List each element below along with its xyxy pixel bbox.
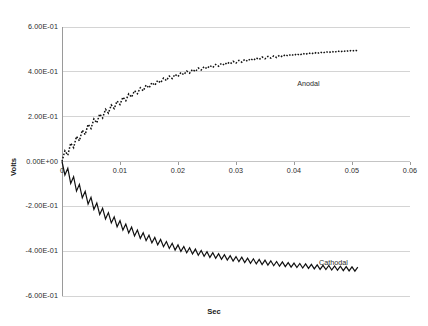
y-tick-label: 4.00E-01	[28, 67, 58, 76]
x-axis-title: Sec	[0, 307, 428, 316]
chart-container: 6.00E-01 4.00E-01 2.00E-01 0.00E+00 -2.0…	[0, 0, 428, 326]
x-tick-label: 0.05	[332, 166, 372, 175]
y-tick-label: 0.00E+00	[26, 157, 58, 166]
x-tick-label: 0.01	[100, 166, 140, 175]
x-tick-label: 0.06	[390, 166, 428, 175]
series-annotation-anodal: Anodal	[297, 79, 319, 88]
y-tick-label: 6.00E-01	[28, 22, 58, 31]
series-line-anodal	[62, 50, 358, 162]
x-tick-label: 0.04	[274, 166, 314, 175]
x-tick-label: 0	[42, 166, 82, 175]
y-tick-label: -2.00E-01	[26, 201, 58, 210]
chart-plot-area	[0, 0, 428, 326]
y-axis-title: Volts	[9, 157, 18, 175]
x-tick-label: 0.03	[216, 166, 256, 175]
y-tick-label: 2.00E-01	[28, 112, 58, 121]
y-tick-label: -4.00E-01	[26, 246, 58, 255]
series-annotation-cathodal: Cathodal	[319, 258, 348, 267]
y-tick-label: -6.00E-01	[26, 291, 58, 300]
x-tick-label: 0.02	[158, 166, 198, 175]
series-line-cathodal	[62, 162, 358, 272]
